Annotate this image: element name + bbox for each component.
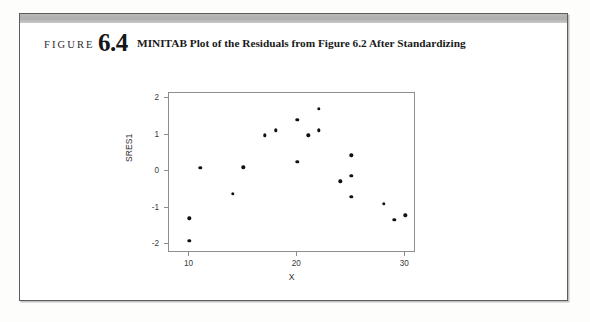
data-point (242, 165, 245, 168)
x-tick-label: 20 (284, 259, 308, 268)
y-tick-label: 1 (137, 129, 159, 138)
y-tick-mark (164, 243, 168, 244)
y-tick-mark (164, 134, 168, 135)
y-tick-label: 0 (137, 166, 159, 175)
data-point (188, 239, 191, 242)
x-tick-label: 30 (392, 259, 416, 268)
data-point (296, 160, 299, 163)
data-point (404, 213, 407, 216)
scatter-chart: 210-1-2 102030 SRES1 X (20, 14, 567, 300)
data-point (393, 218, 396, 221)
y-tick-mark (164, 170, 168, 171)
data-point (350, 174, 353, 177)
data-point (317, 107, 320, 110)
data-point (274, 129, 277, 132)
scanned-page: FIGURE 6.4 MINITAB Plot of the Residuals… (0, 0, 590, 322)
figure-panel: FIGURE 6.4 MINITAB Plot of the Residuals… (19, 13, 568, 301)
data-point (306, 133, 309, 136)
data-point (339, 180, 342, 183)
y-tick-mark (164, 207, 168, 208)
data-point (350, 195, 353, 198)
data-point (296, 118, 299, 121)
y-tick-label: -2 (137, 238, 159, 247)
y-tick-label: 2 (137, 93, 159, 102)
y-tick-mark (164, 97, 168, 98)
data-point (188, 217, 191, 220)
x-tick-mark (404, 252, 405, 256)
y-axis-label: SRES1 (124, 134, 134, 162)
plot-frame (168, 92, 415, 252)
data-point (317, 129, 320, 132)
x-axis-label: X (168, 272, 415, 282)
x-tick-mark (188, 252, 189, 256)
data-point (350, 153, 353, 156)
data-point (231, 192, 234, 195)
data-point (263, 133, 266, 136)
data-point (382, 202, 385, 205)
data-point (199, 166, 202, 169)
x-tick-label: 10 (176, 259, 200, 268)
x-tick-mark (296, 252, 297, 256)
y-tick-label: -1 (137, 202, 159, 211)
